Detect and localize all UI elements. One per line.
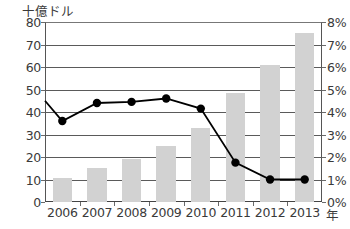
line-series-layer	[45, 22, 322, 202]
y-axis-right-tick	[322, 22, 326, 23]
y-axis-right-tick-label: 4%	[327, 105, 346, 120]
y-axis-left-tick	[41, 90, 45, 91]
x-axis-tick-label-2010: 2010	[184, 205, 219, 220]
line-marker-2007	[93, 99, 101, 107]
x-axis-tick-label-2009: 2009	[149, 205, 184, 220]
y-axis-left-tick-label: 60	[26, 60, 41, 75]
y-axis-right-tick-label: 3%	[327, 127, 346, 142]
y-axis-left-tick-label: 10	[26, 172, 41, 187]
y-axis-right-tick-label: 5%	[327, 82, 346, 97]
x-axis-unit-label: 年	[326, 205, 339, 224]
x-axis-tick-label-2007: 2007	[80, 205, 115, 220]
y-axis-left: 01020304050607080	[0, 0, 41, 229]
line-marker-2006	[58, 117, 66, 125]
line-marker-2011	[231, 158, 239, 166]
y-axis-left-tick	[41, 157, 45, 158]
y-axis-right-tick	[322, 202, 326, 203]
y-axis-left-tick-label: 20	[26, 150, 41, 165]
y-axis-left-tick	[41, 112, 45, 113]
x-axis-tick	[184, 202, 185, 206]
y-axis-right-tick	[322, 135, 326, 136]
y-axis-right-tick-label: 1%	[327, 172, 346, 187]
chart-container: 十億ドル 01020304050607080 0%1%2%3%4%5%6%7%8…	[0, 0, 350, 229]
y-axis-left-tick-label: 50	[26, 82, 41, 97]
y-axis-left-tick-label: 0	[33, 195, 41, 210]
x-axis-tick	[149, 202, 150, 206]
x-axis-tick	[253, 202, 254, 206]
line-marker-2008	[127, 98, 135, 106]
x-axis-tick-label-2008: 2008	[114, 205, 149, 220]
x-axis-tick	[218, 202, 219, 206]
y-axis-right-tick-label: 2%	[327, 150, 346, 165]
y-axis-right-tick-label: 6%	[327, 60, 346, 75]
y-axis-left-tick-label: 70	[26, 37, 41, 52]
y-axis-left-tick-label: 80	[26, 15, 41, 30]
y-axis-left-tick	[41, 135, 45, 136]
y-axis-left-tick	[41, 22, 45, 23]
y-axis-right-tick	[322, 180, 326, 181]
y-axis-left-tick	[41, 45, 45, 46]
y-axis-right-tick-label: 8%	[327, 15, 346, 30]
y-axis-right-tick	[322, 90, 326, 91]
x-axis-tick	[114, 202, 115, 206]
line-marker-2009	[162, 94, 170, 102]
y-axis-right: 0%1%2%3%4%5%6%7%8%	[327, 0, 350, 229]
x-axis-tick-label-2013: 2013	[287, 205, 322, 220]
y-axis-left-tick	[41, 67, 45, 68]
y-axis-left-tick-label: 30	[26, 127, 41, 142]
x-axis-tick-label-2012: 2012	[253, 205, 288, 220]
line-marker-2013	[300, 175, 308, 183]
x-axis-tick-label-2011: 2011	[218, 205, 253, 220]
y-axis-right-tick-label: 7%	[327, 37, 346, 52]
y-axis-left-tick	[41, 180, 45, 181]
line-marker-2012	[266, 175, 274, 183]
x-axis-tick	[80, 202, 81, 206]
x-axis-tick-label-2006: 2006	[45, 205, 80, 220]
y-axis-right-tick	[322, 112, 326, 113]
y-axis-right-tick	[322, 45, 326, 46]
y-axis-left-tick	[41, 202, 45, 203]
line-marker-2010	[197, 104, 205, 112]
y-axis-right-tick	[322, 157, 326, 158]
line-path	[45, 99, 305, 180]
y-axis-right-tick	[322, 67, 326, 68]
y-axis-left-tick-label: 40	[26, 105, 41, 120]
x-axis-tick	[287, 202, 288, 206]
